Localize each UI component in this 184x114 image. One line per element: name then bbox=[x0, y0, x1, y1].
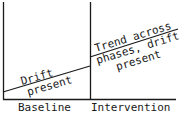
intervention-phase-label: Intervention bbox=[91, 101, 170, 114]
phase-diagram: Drift present Trend across phases, drift… bbox=[0, 0, 184, 114]
baseline-phase-label: Baseline bbox=[18, 101, 71, 114]
